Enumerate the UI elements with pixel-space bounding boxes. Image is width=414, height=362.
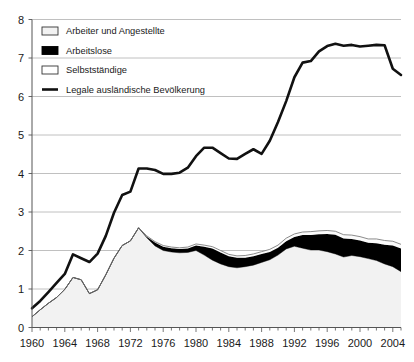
legend-label-arbeitslose: Arbeitslose xyxy=(66,46,112,56)
x-tick-label-1984: 1984 xyxy=(217,337,241,349)
x-tick-label-1972: 1972 xyxy=(118,337,142,349)
legend-label-legale-ausl-ndische-bev-lkerung: Legale ausländische Bevölkerung xyxy=(66,85,205,95)
legend-swatch-white-icon xyxy=(42,66,58,74)
y-tick-label-6: 6 xyxy=(18,91,24,103)
x-tick-label-1988: 1988 xyxy=(249,337,273,349)
x-tick-label-1980: 1980 xyxy=(184,337,208,349)
y-tick-label-7: 7 xyxy=(18,52,24,64)
x-tick-label-1960: 1960 xyxy=(20,337,44,349)
legend-item-selbstst-ndige: Selbstständige xyxy=(42,65,127,75)
x-tick-label-1964: 1964 xyxy=(53,337,77,349)
x-tick-label-1996: 1996 xyxy=(315,337,339,349)
legend-swatch-black-icon xyxy=(42,47,58,55)
y-tick-label-0: 0 xyxy=(18,322,24,334)
x-tick-label-1976: 1976 xyxy=(151,337,175,349)
chart-container: 012345678 196019641968197219761980198419… xyxy=(0,0,414,362)
y-tick-label-4: 4 xyxy=(18,168,24,180)
legend-swatch-light-icon xyxy=(42,27,58,35)
y-tick-label-2: 2 xyxy=(18,245,24,257)
legend-label-arbeiter-und-angestellte: Arbeiter und Angestellte xyxy=(66,26,165,36)
legend-item-arbeitslose: Arbeitslose xyxy=(42,46,112,56)
x-tick-label-1992: 1992 xyxy=(282,337,306,349)
y-tick-label-8: 8 xyxy=(18,14,24,26)
foreign-population-area-chart: 012345678 196019641968197219761980198419… xyxy=(0,0,414,362)
x-tick-label-1968: 1968 xyxy=(85,337,109,349)
y-tick-label-5: 5 xyxy=(18,129,24,141)
y-tick-label-group: 012345678 xyxy=(18,14,24,334)
legend-label-selbstst-ndige: Selbstständige xyxy=(66,65,127,75)
y-tick-label-3: 3 xyxy=(18,206,24,218)
y-tick-label-1: 1 xyxy=(18,283,24,295)
x-tick-label-2000: 2000 xyxy=(348,337,372,349)
legend-item-legale-ausl-ndische-bev-lkerung: Legale ausländische Bevölkerung xyxy=(42,85,205,95)
x-tick-label-2004: 2004 xyxy=(381,337,405,349)
